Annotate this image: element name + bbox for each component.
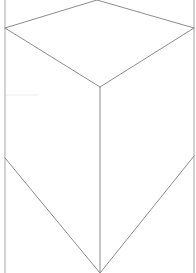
top-face-right-front <box>100 28 194 87</box>
top-face-left-back <box>5 0 97 28</box>
top-face-left-front <box>5 28 100 87</box>
diagram-canvas <box>0 0 196 273</box>
top-face-right-back <box>97 0 194 28</box>
prism-drawing <box>0 0 196 273</box>
bottom-right-edge <box>100 156 194 273</box>
bottom-left-edge <box>5 158 100 273</box>
prism-edges <box>5 0 194 273</box>
